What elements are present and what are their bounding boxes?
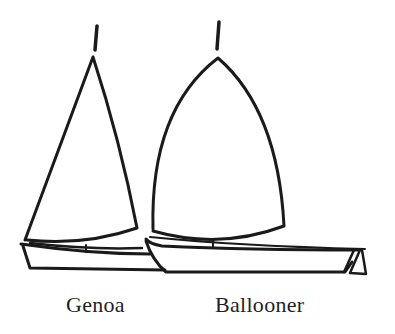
genoa-sail	[25, 57, 137, 242]
ballooner-mast-top	[217, 22, 219, 49]
sailboat-diagram: Genoa Ballooner	[0, 0, 395, 334]
ballooner-boat	[146, 22, 366, 274]
ballooner-label: Ballooner	[215, 292, 304, 318]
ballooner-sail	[153, 58, 284, 239]
sailboats-drawing	[0, 0, 395, 334]
genoa-mast-top	[95, 26, 97, 50]
genoa-label: Genoa	[66, 292, 125, 318]
genoa-boat	[21, 26, 165, 270]
